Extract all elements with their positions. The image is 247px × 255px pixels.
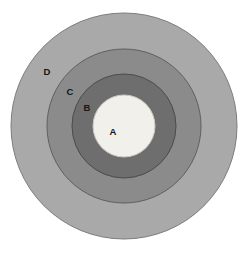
- concentric-circles-diagram: D C B A: [0, 0, 247, 255]
- diagram-canvas: D C B A: [0, 0, 247, 255]
- ring-label-c: C: [67, 86, 74, 97]
- ring-label-a: A: [110, 126, 117, 137]
- ring-a-circle: [93, 95, 155, 157]
- ring-label-d: D: [44, 66, 51, 77]
- ring-label-b: B: [84, 102, 91, 113]
